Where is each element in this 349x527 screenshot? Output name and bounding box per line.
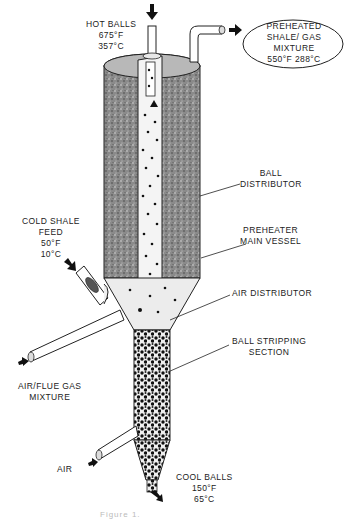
outlet-pipe <box>190 26 225 62</box>
outlet-arrow-icon <box>229 24 242 36</box>
ball-distributor-label: BALL DISTRIBUTOR <box>240 168 302 190</box>
air-flue-gas-arrow-icon <box>18 357 29 366</box>
air-pipe <box>96 426 138 460</box>
preheater-main-vessel-label: PREHEATER MAIN VESSEL <box>240 225 301 247</box>
hot-balls-label: HOT BALLS 675°F 357°C <box>86 19 136 52</box>
air-label: AIR <box>57 464 72 475</box>
air-arrow-icon <box>88 458 98 467</box>
figure-caption: Figure 1. <box>100 510 141 519</box>
hot-balls-inlet-pipe <box>143 26 161 59</box>
air-flue-gas-pipe <box>28 310 124 362</box>
ball-stripping-section-label: BALL STRIPPING SECTION <box>232 336 306 358</box>
ball-stripping-section <box>134 330 170 492</box>
cool-balls-label: COOL BALLS 150°F 65°C <box>176 472 233 505</box>
hot-balls-title: HOT BALLS <box>86 19 136 30</box>
hot-balls-temp-c: 357°C <box>86 41 136 52</box>
hot-balls-arrow-icon <box>146 4 158 20</box>
preheated-output-label: PREHEATED SHALE/ GAS MIXTURE 550°F 288°C <box>254 21 334 65</box>
air-flue-gas-label: AIR/FLUE GAS MIXTURE <box>18 381 81 403</box>
preheater-diagram <box>0 0 349 527</box>
cold-shale-feed-pipe <box>76 266 108 305</box>
air-distributor-label: AIR DISTRIBUTOR <box>232 288 312 299</box>
hot-balls-temp-f: 675°F <box>86 30 136 41</box>
ball-distributor-column <box>138 56 162 282</box>
cold-shale-feed-label: COLD SHALE FEED 50°F 10°C <box>22 216 80 260</box>
